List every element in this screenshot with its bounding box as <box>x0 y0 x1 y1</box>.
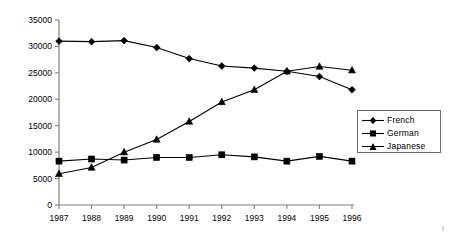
legend-label-german: German <box>385 128 419 139</box>
x-axis-tick-labels: 1987198819891990199119921993199419951996 <box>50 213 362 223</box>
x-tick-label: 1994 <box>277 213 296 223</box>
data-point-marker <box>186 55 193 62</box>
data-point-marker <box>219 152 225 158</box>
data-point-marker <box>251 65 258 72</box>
data-point-marker <box>153 44 160 51</box>
square-marker-icon <box>361 128 385 139</box>
data-point-marker <box>284 158 290 164</box>
x-tick-label: 1988 <box>82 213 101 223</box>
y-tick-label: 35000 <box>28 15 52 25</box>
data-point-marker <box>316 153 322 159</box>
data-point-marker <box>251 86 258 93</box>
data-point-marker <box>121 37 128 44</box>
series-german <box>56 152 355 164</box>
page-artifact-mark <box>442 226 444 231</box>
data-point-marker <box>349 158 355 164</box>
y-tick-label: 25000 <box>28 68 52 78</box>
line-chart: 05000100001500020000250003000035000 1987… <box>0 0 450 239</box>
data-point-marker <box>121 157 127 163</box>
x-tick-label: 1996 <box>343 213 362 223</box>
data-point-marker <box>56 158 62 164</box>
data-point-marker <box>88 164 95 171</box>
data-point-marker <box>316 73 323 80</box>
x-tick-label: 1989 <box>115 213 134 223</box>
series-line <box>59 41 352 90</box>
data-point-marker <box>251 154 257 160</box>
y-axis-tick-labels: 05000100001500020000250003000035000 <box>28 15 52 210</box>
y-tick-label: 30000 <box>28 41 52 51</box>
data-point-marker <box>218 63 225 70</box>
x-tick-label: 1993 <box>245 213 264 223</box>
y-tick-label: 15000 <box>28 121 52 131</box>
data-point-marker <box>186 154 192 160</box>
triangle-marker-icon <box>361 141 385 152</box>
data-point-marker <box>349 86 356 93</box>
data-point-marker <box>89 156 95 162</box>
data-point-marker <box>153 136 160 143</box>
chart-series <box>56 37 356 176</box>
y-tick-label: 10000 <box>28 147 52 157</box>
chart-axes <box>55 20 354 209</box>
y-tick-label: 20000 <box>28 94 52 104</box>
y-tick-label: 0 <box>47 200 52 210</box>
data-point-marker <box>186 118 193 125</box>
series-french <box>56 37 356 93</box>
x-tick-label: 1995 <box>310 213 329 223</box>
legend-item-japanese: Japanese <box>361 140 438 152</box>
data-point-marker <box>88 38 95 45</box>
diamond-marker-icon <box>361 115 385 126</box>
x-tick-label: 1992 <box>212 213 231 223</box>
chart-legend: French German Japanese <box>357 110 441 153</box>
data-point-marker <box>154 154 160 160</box>
x-tick-label: 1990 <box>147 213 166 223</box>
legend-item-german: German <box>361 127 438 139</box>
x-tick-label: 1991 <box>180 213 199 223</box>
series-line <box>59 155 352 161</box>
legend-item-french: French <box>361 114 438 126</box>
legend-label-japanese: Japanese <box>385 141 425 152</box>
data-point-marker <box>56 38 63 45</box>
legend-label-french: French <box>385 115 415 126</box>
y-tick-label: 5000 <box>33 174 52 184</box>
x-tick-label: 1987 <box>50 213 69 223</box>
data-point-marker <box>316 63 323 70</box>
